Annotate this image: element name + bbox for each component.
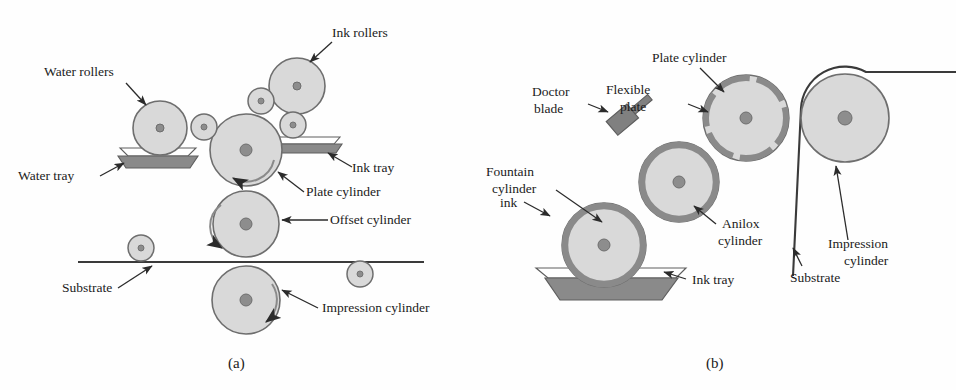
label-ink-tray: Ink tray bbox=[352, 160, 395, 175]
label-anilox-line1: Anilox bbox=[722, 216, 760, 231]
label-water-tray: Water tray bbox=[18, 168, 75, 183]
label-fountain-cylinder: Fountain cylinder bbox=[486, 164, 537, 196]
label-substrate: Substrate bbox=[62, 280, 112, 295]
hub bbox=[240, 294, 252, 306]
hub bbox=[240, 144, 252, 156]
caption-b: (b) bbox=[706, 355, 724, 372]
caption-a: (a) bbox=[228, 355, 245, 372]
label-impression-cylinder-b: Impression cylinder bbox=[828, 236, 891, 268]
hub bbox=[357, 271, 363, 277]
fountain-cylinder-b bbox=[562, 203, 646, 287]
hub bbox=[258, 98, 264, 104]
label-anilox-cylinder: Anilox cylinder bbox=[718, 216, 763, 248]
hub bbox=[740, 112, 752, 124]
label-imp-line2: cylinder bbox=[844, 253, 889, 268]
hub bbox=[293, 82, 301, 90]
label-doctor-line1: Doctor bbox=[532, 84, 570, 99]
label-flex-line2: plate bbox=[620, 99, 646, 114]
hub bbox=[598, 239, 610, 251]
label-fountain-line1: Fountain bbox=[486, 164, 534, 179]
anilox-cylinder-b bbox=[639, 142, 719, 222]
label-plate-cylinder-b: Plate cylinder bbox=[652, 50, 727, 65]
ink-tray-shape bbox=[274, 137, 342, 153]
label-ink-tray-b: Ink tray bbox=[692, 272, 735, 287]
panel-b: Plate cylinder Doctor blade Flexible pla… bbox=[486, 50, 956, 372]
hub bbox=[201, 124, 207, 130]
hub bbox=[138, 245, 144, 251]
hub bbox=[290, 122, 296, 128]
label-impression-cylinder: Impression cylinder bbox=[322, 300, 430, 315]
label-fountain-line2: cylinder bbox=[492, 181, 537, 196]
label-doctor-blade: Doctor blade bbox=[532, 84, 573, 116]
label-water-rollers: Water rollers bbox=[44, 64, 114, 79]
figure-canvas: Water rollers Ink rollers Water tray Ink… bbox=[0, 0, 956, 390]
hub bbox=[838, 111, 852, 125]
printing-press-diagram: Water rollers Ink rollers Water tray Ink… bbox=[0, 0, 956, 390]
label-ink-rollers: Ink rollers bbox=[332, 25, 388, 40]
label-ink: ink bbox=[500, 195, 518, 210]
label-plate-cylinder: Plate cylinder bbox=[306, 184, 381, 199]
label-flex-line1: Flexible bbox=[606, 82, 650, 97]
hub bbox=[156, 124, 164, 132]
label-substrate-b: Substrate bbox=[790, 270, 840, 285]
label-offset-cylinder: Offset cylinder bbox=[330, 212, 412, 227]
hub bbox=[673, 176, 685, 188]
plate-cylinder-b bbox=[703, 75, 789, 161]
label-anilox-line2: cylinder bbox=[718, 233, 763, 248]
hub bbox=[240, 218, 252, 230]
label-imp-line1: Impression bbox=[828, 236, 888, 251]
label-doctor-line2: blade bbox=[534, 101, 563, 116]
panel-a: Water rollers Ink rollers Water tray Ink… bbox=[18, 25, 430, 372]
